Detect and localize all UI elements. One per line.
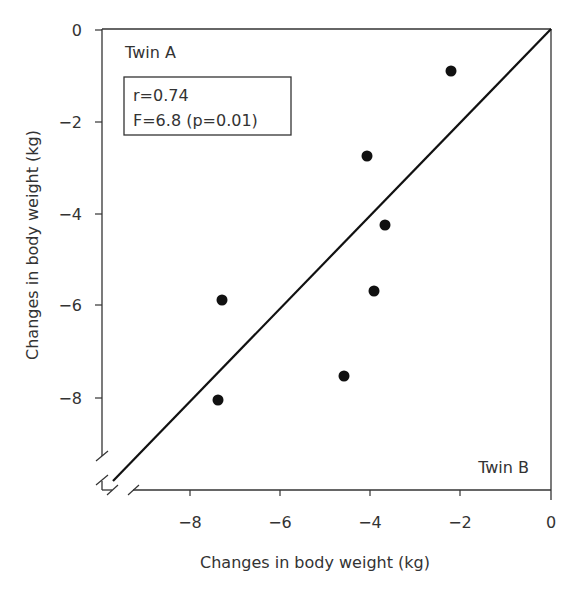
data-point — [339, 371, 350, 382]
y-tick-minus6: −6 — [58, 296, 82, 315]
data-point — [369, 286, 380, 297]
y-tick-minus2: −2 — [58, 113, 82, 132]
twin-b-label: Twin B — [477, 458, 529, 477]
x-tick-minus4: −4 — [358, 513, 382, 532]
stats-f: F=6.8 (p=0.01) — [133, 111, 258, 130]
data-point — [362, 151, 373, 162]
data-point — [213, 395, 224, 406]
x-axis — [102, 485, 551, 496]
stats-r: r=0.74 — [133, 86, 189, 105]
data-point — [380, 220, 391, 231]
y-axis-label: Changes in body weight (kg) — [23, 130, 42, 360]
y-axis — [95, 29, 108, 490]
x-tick-minus2: −2 — [448, 513, 472, 532]
scatter-chart: 0 −2 −4 −6 −8 −8 −6 −4 −2 0 Changes in b… — [0, 0, 576, 594]
data-point — [446, 66, 457, 77]
x-tick-minus8: −8 — [178, 513, 202, 532]
x-axis-label: Changes in body weight (kg) — [200, 553, 430, 572]
x-tick-labels: −8 −6 −4 −2 0 — [178, 513, 556, 532]
x-tick-minus6: −6 — [268, 513, 292, 532]
y-tick-minus4: −4 — [58, 205, 82, 224]
y-tick-labels: 0 −2 −4 −6 −8 — [58, 21, 82, 408]
twin-a-label: Twin A — [124, 43, 176, 62]
x-tick-0: 0 — [546, 513, 556, 532]
y-tick-0: 0 — [72, 21, 82, 40]
y-tick-minus8: −8 — [58, 389, 82, 408]
data-point — [217, 295, 228, 306]
